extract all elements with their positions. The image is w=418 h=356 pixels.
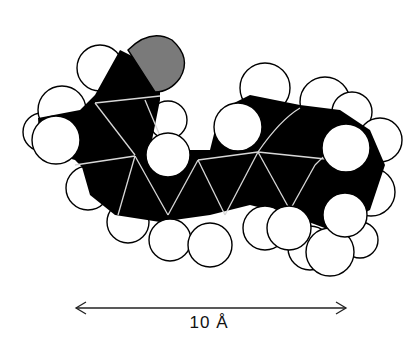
hydrogen-atom bbox=[322, 124, 370, 172]
hydrogen-atom bbox=[149, 219, 191, 261]
hydrogen-atom bbox=[323, 193, 367, 237]
molecule-diagram: 10 Å bbox=[0, 0, 418, 356]
hydrogen-atom bbox=[267, 206, 311, 250]
space-filling-model bbox=[0, 0, 418, 356]
scale-bar-label: 10 Å bbox=[0, 313, 418, 333]
hydrogen-atom bbox=[214, 103, 262, 151]
hydrogen-atom bbox=[188, 223, 232, 267]
hydrogen-atom bbox=[146, 133, 190, 177]
hydrogen-atom bbox=[32, 116, 80, 164]
